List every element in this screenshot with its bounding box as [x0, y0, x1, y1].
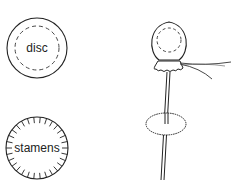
string-lower	[180, 64, 212, 79]
stamen-tick	[16, 125, 20, 129]
stamen-tick	[50, 170, 53, 175]
stamen-tick	[45, 172, 47, 178]
stamen-tick	[54, 125, 58, 129]
stamen-tick	[9, 158, 14, 160]
stamen-tick	[7, 153, 13, 154]
disc-label: disc	[26, 41, 47, 55]
stamen-tick	[40, 173, 41, 179]
flower-model-diagram: disc stamens	[0, 0, 245, 187]
stamen-tick	[12, 163, 17, 167]
stamen-tick	[7, 142, 13, 143]
stamen-tick	[61, 153, 67, 154]
stamen-tick	[60, 158, 65, 160]
stamen-tick	[57, 163, 62, 167]
stamen-tick	[60, 135, 65, 137]
assembled-model	[146, 22, 231, 180]
stamen-tick	[61, 142, 67, 143]
stamen-tick	[34, 173, 35, 179]
stamen-tick	[45, 119, 47, 125]
ruffle-collar	[154, 61, 183, 72]
stamen-tick	[40, 117, 41, 123]
stamens-disc-ellipse	[146, 113, 186, 135]
stamen-tick	[27, 119, 29, 125]
stamen-tick	[27, 172, 29, 178]
stamen-tick	[9, 135, 14, 137]
stamen-tick	[34, 117, 35, 123]
disc-diagram: disc	[7, 18, 67, 78]
stamen-tick	[50, 121, 53, 126]
stamens-diagram: stamens	[6, 117, 68, 179]
string-upper	[180, 62, 231, 64]
stamens-label: stamens	[14, 141, 59, 155]
stamen-tick	[22, 121, 25, 126]
stamen-tick	[22, 170, 25, 175]
stamen-tick	[16, 167, 20, 171]
stamen-tick	[12, 130, 17, 134]
stamen-tick	[54, 167, 58, 171]
stamen-tick	[57, 130, 62, 134]
